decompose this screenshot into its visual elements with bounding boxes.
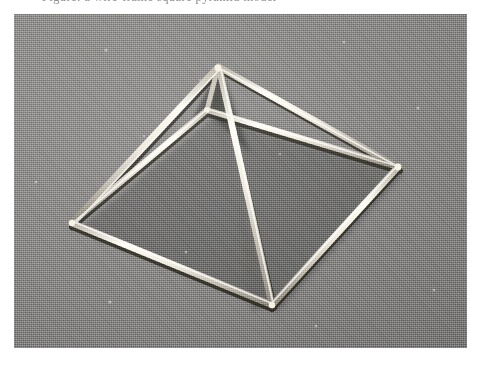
caption-strip: Figure: a wire-frame square pyramid mode… [0, 0, 480, 11]
photo-speckle [417, 107, 420, 110]
joint-base-right [395, 164, 402, 171]
photo-speckle [433, 289, 436, 292]
photo-speckle [249, 209, 252, 212]
photo-speckle [35, 181, 38, 184]
photo-speckle [185, 251, 187, 253]
photo-speckle [279, 153, 281, 155]
joint-base-left [69, 220, 75, 226]
photo-speckle [143, 135, 145, 137]
joint-base-front [269, 302, 275, 308]
photo-speckle [104, 48, 107, 51]
pyramid-photo-canvas [14, 14, 467, 348]
photo-speckle [199, 79, 201, 81]
photo-speckle [343, 41, 345, 43]
caption-text: Figure: a wire-frame square pyramid mode… [42, 0, 277, 5]
photo-speckle [109, 301, 112, 304]
joint-apex [215, 65, 222, 72]
photograph [14, 14, 467, 348]
joint-base-back [204, 107, 210, 113]
photo-speckle [315, 325, 317, 327]
